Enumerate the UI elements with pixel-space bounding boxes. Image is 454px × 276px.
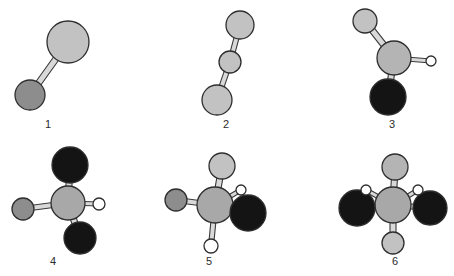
structure-2-atom-top-light: [226, 11, 254, 39]
structure-5-atom-left-medium: [165, 189, 187, 211]
structure-2-atom-bottom-light: [202, 85, 232, 115]
structure-5-atom-top-light: [209, 153, 235, 179]
structure-3-atom-upper-left-light: [353, 9, 377, 33]
structure-6-atom-center-gray: [375, 187, 411, 223]
structure-6-atom-left-black: [339, 190, 375, 226]
structure-5-atom-upper-right-white: [236, 185, 246, 195]
structure-6-atom-right-white: [413, 185, 423, 195]
structure-label-1: 1: [45, 118, 51, 130]
structure-6-atom-right-black: [413, 191, 447, 225]
structure-label-6: 6: [392, 255, 398, 267]
structure-3: [353, 9, 436, 115]
structure-4-atom-right-white: [93, 198, 105, 210]
structure-5-atom-lower-right-black: [230, 195, 266, 231]
structure-1: [15, 21, 89, 110]
structure-6: [339, 154, 447, 254]
structure-label-5: 5: [206, 255, 212, 267]
structure-2-atom-middle-light: [219, 51, 241, 73]
structure-5: [165, 153, 266, 253]
structure-2: [202, 11, 254, 115]
structure-5-atom-center-gray: [197, 187, 233, 223]
structure-3-atom-bottom-black: [370, 79, 406, 115]
structure-6-atom-bottom-light: [382, 232, 404, 254]
structure-4-atom-bottom-black: [64, 222, 96, 254]
structure-4-atom-top-black: [52, 147, 88, 183]
structure-3-atom-right-white: [426, 56, 436, 66]
structure-4-atom-center-gray: [51, 186, 85, 220]
structure-label-3: 3: [389, 118, 395, 130]
structure-3-atom-center-light: [377, 41, 411, 75]
structure-5-atom-bottom-white: [204, 239, 218, 253]
structure-1-atom-large-light: [47, 21, 89, 63]
structure-4: [12, 147, 105, 254]
structure-label-2: 2: [223, 118, 229, 130]
structure-6-atom-left-white: [361, 185, 371, 195]
structure-6-atom-top-light: [382, 154, 408, 180]
structure-1-atom-small-medium: [15, 80, 45, 110]
structure-label-4: 4: [50, 255, 56, 267]
structure-4-atom-left-medium: [12, 198, 34, 220]
molecular-structures-figure: [0, 0, 454, 276]
